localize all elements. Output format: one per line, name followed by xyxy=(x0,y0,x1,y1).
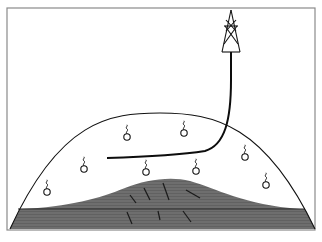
gas-bubble-icon xyxy=(124,125,130,140)
gas-bubble-icon xyxy=(263,173,269,188)
reservoir-diagram xyxy=(0,0,322,242)
gas-bubble-icon xyxy=(81,157,87,172)
reservoir-diagram-svg xyxy=(0,0,322,242)
water-zone xyxy=(0,179,322,230)
gas-bubble-icon xyxy=(242,145,248,160)
gas-bubble-icon xyxy=(193,159,199,174)
gas-bubble-icon xyxy=(44,180,50,195)
horizontal-well-path xyxy=(107,52,231,158)
gas-bubble-icon xyxy=(143,160,149,175)
gas-bubble-icon xyxy=(181,121,187,136)
drilling-derrick-icon xyxy=(222,10,240,52)
